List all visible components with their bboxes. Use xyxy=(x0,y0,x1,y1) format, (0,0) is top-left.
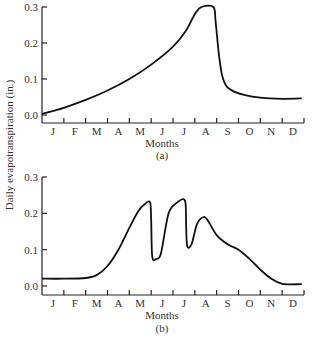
series-line-evapotranspiration xyxy=(42,6,302,114)
x-tick-label: F xyxy=(72,297,78,309)
x-tick-label: A xyxy=(114,125,122,137)
x-tick-label: M xyxy=(135,297,145,309)
x-tick-label: O xyxy=(245,125,253,137)
x-tick-label: J xyxy=(182,297,187,309)
y-tick-label: 0.2 xyxy=(24,207,38,219)
x-tick-label: N xyxy=(267,297,275,309)
chart-panel-a: 0.00.10.20.3JFMAMJJASONDMonths(a) xyxy=(24,1,304,162)
x-tick-label: S xyxy=(225,297,231,309)
x-tick-label: A xyxy=(202,125,210,137)
series-line-evapotranspiration xyxy=(42,199,302,284)
x-tick-label: M xyxy=(135,125,145,137)
x-tick-label: J xyxy=(160,125,165,137)
y-tick-label: 0.2 xyxy=(24,37,38,49)
panel-label: (b) xyxy=(156,322,169,335)
x-tick-label: M xyxy=(92,125,102,137)
x-axis-title: Months xyxy=(145,309,179,321)
x-tick-label: J xyxy=(51,125,56,137)
x-tick-label: A xyxy=(202,297,210,309)
x-tick-label: F xyxy=(72,125,78,137)
y-tick-label: 0.0 xyxy=(24,280,38,292)
y-tick-label: 0.1 xyxy=(24,73,38,85)
figure: Daily evapotranspiration (in.) 0.00.10.2… xyxy=(0,0,313,340)
x-tick-label: D xyxy=(289,297,297,309)
y-tick-label: 0.0 xyxy=(24,109,38,121)
x-tick-label: A xyxy=(114,297,122,309)
panel-label: (a) xyxy=(156,149,169,162)
shared-y-axis-title: Daily evapotranspiration (in.) xyxy=(3,79,16,210)
x-tick-label: N xyxy=(267,125,275,137)
x-tick-label: J xyxy=(160,297,165,309)
x-tick-label: J xyxy=(182,125,187,137)
x-axis-title: Months xyxy=(145,137,179,149)
chart-panel-b: 0.00.10.20.3JFMAMJJASONDMonths(b) xyxy=(24,171,304,335)
x-tick-label: D xyxy=(289,125,297,137)
y-tick-label: 0.1 xyxy=(24,244,38,256)
x-tick-label: O xyxy=(245,297,253,309)
y-tick-label: 0.3 xyxy=(24,171,38,183)
x-tick-label: J xyxy=(51,297,56,309)
y-tick-label: 0.3 xyxy=(24,1,38,13)
x-tick-label: M xyxy=(92,297,102,309)
x-tick-label: S xyxy=(225,125,231,137)
